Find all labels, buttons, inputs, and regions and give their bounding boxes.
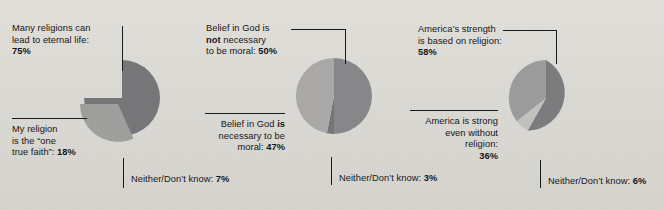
pie3-label-left-line2: even without xyxy=(390,128,498,140)
pie1-label-left-line1: My religion xyxy=(12,124,110,136)
pie1-label-left-pct: 18% xyxy=(57,147,76,157)
leader-line-pie3-left xyxy=(410,110,498,111)
pie2-label-left-line3: moral: xyxy=(237,142,266,152)
leader-line-pie1-left xyxy=(12,118,87,119)
pie2-label-left-pct: 47% xyxy=(266,142,285,152)
pie2-label-top-not: not xyxy=(206,35,221,45)
pie2-label-top-line2b: necessary xyxy=(221,35,266,45)
leader-line-pie2-bottom xyxy=(331,157,332,185)
pie2-label-left: Belief in God is necessary to be moral: … xyxy=(180,119,285,154)
pie3-label-left-line1: America is strong xyxy=(390,116,498,128)
pie3-label-bottom-pct: 6% xyxy=(633,176,647,186)
pie1-label-top-line1: Many religions can xyxy=(12,23,122,35)
pie1-label-bottom-pct: 7% xyxy=(216,174,230,184)
pie2-label-left-is: is xyxy=(277,119,285,129)
pie3-label-left-pct: 36% xyxy=(479,151,498,161)
leader-line-pie2-top-v xyxy=(345,29,346,64)
leader-line-pie3-top-v xyxy=(556,30,557,64)
pie2-label-bottom-pct: 3% xyxy=(424,173,438,183)
pie3-label-left: America is strong even without religion:… xyxy=(390,116,498,162)
pie2-label-bottom: Neither/Don’t know: 3% xyxy=(339,173,437,185)
pie3-label-left-line3: religion: xyxy=(390,139,498,151)
pie1-label-left-line2: is the “one xyxy=(12,136,110,148)
pie2-slice-50 xyxy=(334,58,372,134)
pie2-label-top-line1: Belief in God is xyxy=(206,23,314,35)
pie2-label-top: Belief in God is not necessary to be mor… xyxy=(206,23,314,58)
pie1-label-left: My religion is the “one true faith”: 18% xyxy=(12,124,110,159)
pie-chart-america-strength xyxy=(507,59,585,137)
pie2-label-top-line3: to be moral: xyxy=(206,46,258,56)
pie3-label-top-pct: 58% xyxy=(418,47,437,57)
pie3-label-bottom: Neither/Don’t know: 6% xyxy=(548,176,646,188)
pie1-label-bottom: Neither/Don’t know: 7% xyxy=(131,174,229,186)
pie3-label-top-line2: is based on religion: xyxy=(418,36,530,48)
figure-canvas: Many religions can lead to eternal life:… xyxy=(0,0,664,209)
pie1-label-bottom-text: Neither/Don’t know: xyxy=(131,174,213,184)
pie3-label-top: America’s strength is based on religion:… xyxy=(418,24,530,59)
pie3-label-bottom-text: Neither/Don’t know: xyxy=(548,176,630,186)
leader-line-pie1-bottom xyxy=(123,158,124,188)
pie2-label-left-line1a: Belief in God xyxy=(221,119,278,129)
leader-line-pie2-left xyxy=(205,113,285,114)
pie1-label-left-line3: true faith”: xyxy=(12,147,54,157)
pie2-label-bottom-text: Neither/Don’t know: xyxy=(339,173,421,183)
pie1-label-top-line2: lead to eternal life: xyxy=(12,35,122,47)
pie1-label-top: Many religions can lead to eternal life:… xyxy=(12,23,122,58)
pie2-label-left-line2: necessary to be xyxy=(180,131,285,143)
pie-chart-belief-god-moral xyxy=(295,57,373,135)
pie1-label-top-pct: 75% xyxy=(12,46,31,56)
pie2-slice-47 xyxy=(296,58,334,133)
pie2-label-top-pct: 50% xyxy=(258,46,277,56)
pie3-label-top-line1: America’s strength xyxy=(418,24,530,36)
leader-line-pie3-bottom xyxy=(540,160,541,188)
leader-line-pie1-top xyxy=(122,26,123,71)
